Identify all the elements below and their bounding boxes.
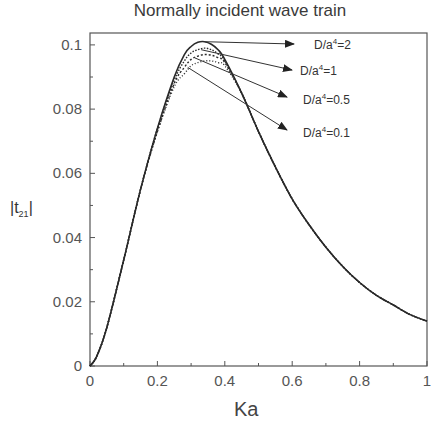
y-axis-label: |t21| xyxy=(10,199,33,219)
plot-frame xyxy=(90,33,427,366)
x-tick-label: 1 xyxy=(407,372,442,389)
y-label-end: | xyxy=(29,199,33,216)
y-tick-label: 0.06 xyxy=(12,164,82,181)
curve-series-3 xyxy=(90,61,427,366)
y-label-main: |t xyxy=(10,199,19,216)
data-curves xyxy=(90,42,427,366)
legend-label-d2: D/a4=2 xyxy=(314,37,351,52)
legend-label-d01: D/a4=0.1 xyxy=(303,125,350,140)
annotation-arrow xyxy=(188,67,287,130)
x-tick-label: 0 xyxy=(70,372,110,389)
x-tick-label: 0.8 xyxy=(340,372,380,389)
y-tick-label: 0.02 xyxy=(12,293,82,310)
y-tick-label: 0.1 xyxy=(12,36,82,53)
x-tick-label: 0.2 xyxy=(137,372,177,389)
y-tick-label: 0.04 xyxy=(12,229,82,246)
annotation-arrow xyxy=(201,50,292,70)
annotation-arrow xyxy=(205,42,294,44)
x-axis-label: Ka xyxy=(234,398,258,421)
y-tick-label: 0.08 xyxy=(12,100,82,117)
annotation-arrows xyxy=(188,42,294,130)
curve-series-1 xyxy=(90,48,427,366)
y-label-subscript: 21 xyxy=(19,209,29,219)
legend-label-d1: D/a4=1 xyxy=(300,63,337,78)
x-tick-label: 0.4 xyxy=(205,372,245,389)
curve-series-0 xyxy=(90,42,427,366)
axis-ticks xyxy=(90,45,427,366)
legend-label-d05: D/a4=0.5 xyxy=(303,92,350,107)
curve-series-2 xyxy=(90,54,427,366)
x-tick-label: 0.6 xyxy=(272,372,312,389)
